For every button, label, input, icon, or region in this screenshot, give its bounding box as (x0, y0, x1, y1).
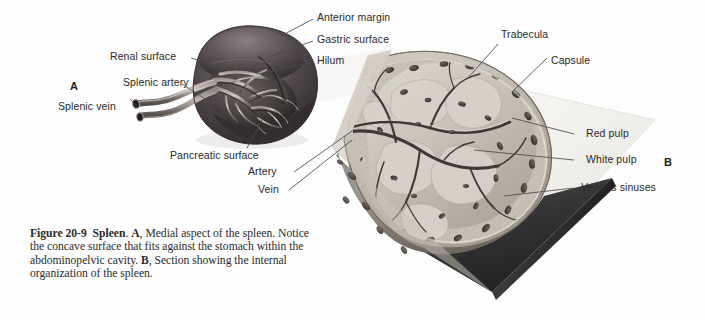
label-splenic-vein: Splenic vein (58, 101, 116, 112)
label-pancreatic-surface: Pancreatic surface (170, 150, 259, 161)
label-gastric-surface: Gastric surface (317, 34, 389, 45)
caption-a-letter: A (131, 227, 139, 240)
label-white-pulp: White pulp (586, 154, 637, 165)
caption-organ: Spleen (93, 227, 126, 240)
label-hilum: Hilum (317, 55, 344, 66)
label-artery: Artery (248, 166, 277, 177)
caption-b-letter: B (141, 254, 149, 267)
panel-b-letter: B (664, 156, 672, 168)
leader-capsule (512, 58, 547, 92)
figure-caption: Figure 20-9 Spleen. A, Medial aspect of … (30, 227, 320, 281)
figure-container: A B Renal surface Splenic artery Splenic… (0, 0, 705, 320)
label-venous-sinuses: Venous sinuses (581, 182, 656, 193)
panel-a-letter: A (70, 80, 78, 92)
label-trabecula: Trabecula (501, 29, 548, 40)
label-red-pulp: Red pulp (586, 128, 629, 139)
label-capsule: Capsule (551, 55, 590, 66)
label-renal-surface: Renal surface (110, 51, 176, 62)
label-anterior-margin: Anterior margin (317, 12, 390, 23)
label-splenic-artery: Splenic artery (123, 77, 189, 88)
caption-figure-number: Figure 20-9 (30, 227, 87, 240)
label-vein: Vein (258, 184, 279, 195)
leader-anterior-margin (281, 19, 313, 36)
